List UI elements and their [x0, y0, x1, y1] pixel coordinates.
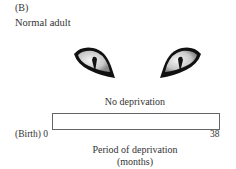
- axis-title: Period of deprivation: [0, 144, 236, 155]
- cat-eye-icon: [71, 44, 117, 80]
- bar-label: No deprivation: [0, 96, 236, 107]
- panel-label: (B): [15, 2, 28, 13]
- subtitle: Normal adult: [15, 17, 71, 28]
- axis-units: (months): [0, 156, 236, 167]
- axis-end-label: 38: [210, 129, 220, 139]
- axis-start-label: (Birth) 0: [15, 129, 48, 139]
- cat-eye-icon: [158, 44, 204, 80]
- deprivation-bar: [52, 113, 220, 130]
